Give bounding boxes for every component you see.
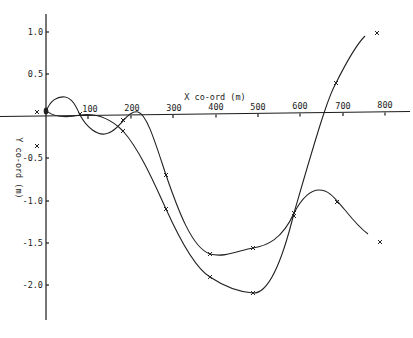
x-marker — [378, 240, 382, 244]
y-tick-label: -1.0 — [23, 196, 43, 206]
curve-b — [46, 97, 368, 255]
x-marker — [208, 275, 212, 279]
y-tick-label: 1.0 — [28, 27, 43, 37]
curve-a — [46, 36, 365, 293]
y-tick-labels: 1.0 0.5 -0.5 -1.0 -1.5 -2.0 — [23, 27, 43, 290]
x-tick-label: 800 — [377, 100, 392, 110]
y-tick-label: -1.5 — [23, 238, 43, 248]
x-tick-label: 600 — [292, 101, 307, 111]
x-axis-title: X co-ord (m) — [184, 92, 245, 102]
y-tick-label: -0.5 — [23, 153, 43, 163]
x-tick-label: 300 — [166, 103, 181, 113]
x-tick-label: 700 — [335, 101, 350, 111]
x-marker — [334, 81, 338, 85]
isolated-markers — [35, 31, 382, 244]
x-marker — [375, 31, 379, 35]
x-tick-label: 100 — [82, 104, 97, 114]
x-axis — [0, 112, 410, 117]
origin-marker — [44, 108, 49, 115]
y-axis-title: Y co-ord (m) — [14, 137, 24, 198]
x-tick-label: 400 — [208, 102, 223, 112]
y-tick-label: -2.0 — [23, 280, 43, 290]
x-marker — [35, 144, 39, 148]
x-marker — [164, 207, 168, 211]
x-tick-label: 500 — [250, 102, 265, 112]
y-tick-label: 0.5 — [28, 69, 43, 79]
x-marker — [35, 110, 39, 114]
chart: 1.0 0.5 -0.5 -1.0 -1.5 -2.0 100 200 300 … — [0, 0, 413, 338]
x-marker — [121, 129, 125, 133]
